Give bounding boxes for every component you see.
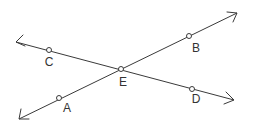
label-d: D bbox=[192, 92, 201, 106]
point-b bbox=[187, 34, 192, 39]
point-c bbox=[47, 48, 52, 53]
point-a bbox=[57, 96, 62, 101]
point-d bbox=[190, 87, 195, 92]
label-b: B bbox=[192, 41, 200, 55]
label-a: A bbox=[63, 101, 71, 115]
label-e: E bbox=[119, 75, 127, 89]
arrowhead-icon bbox=[19, 109, 29, 119]
line-cd bbox=[16, 35, 234, 104]
intersecting-lines-diagram: A B C D E bbox=[0, 0, 255, 135]
point-e bbox=[119, 67, 124, 72]
label-c: C bbox=[45, 55, 54, 69]
